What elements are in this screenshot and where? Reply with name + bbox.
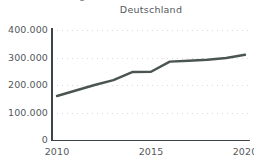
x-tick-label-2010: 2010 xyxy=(27,146,87,157)
chart-figure: Bevölkerung Deutschland 400.000 300.000 … xyxy=(0,0,254,166)
data-series-layer xyxy=(0,0,254,166)
x-tick-label-2020: 2020 xyxy=(215,146,254,157)
x-tick-label-2015: 2015 xyxy=(121,146,181,157)
line-series-deutschland xyxy=(57,55,245,96)
